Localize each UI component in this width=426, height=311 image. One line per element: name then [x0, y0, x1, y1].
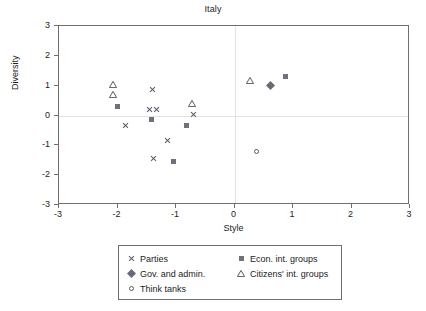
x-axis-tick	[409, 204, 410, 208]
y-axis-tick	[54, 115, 58, 116]
data-point	[188, 100, 196, 107]
y-axis-tick	[54, 55, 58, 56]
chart-legend: PartiesEcon. int. groupsGov. and admin.C…	[118, 245, 342, 300]
chart-title: Italy	[0, 4, 426, 14]
legend-label: Think tanks	[140, 284, 186, 294]
x-axis-tick-label: -2	[102, 209, 132, 219]
data-point	[153, 106, 160, 113]
data-point	[283, 74, 288, 79]
x-axis-tick	[175, 204, 176, 208]
data-point	[109, 81, 117, 88]
legend-item-empty	[235, 281, 337, 296]
data-point	[164, 137, 171, 144]
legend-item[interactable]: Citizens' int. groups	[235, 266, 337, 281]
y-axis-label-text: Diversity	[10, 55, 20, 90]
y-axis-tick	[54, 174, 58, 175]
x-axis-tick	[58, 204, 59, 208]
legend-label: Citizens' int. groups	[250, 269, 328, 279]
marker-open-triangle	[237, 270, 245, 277]
x-axis-tick	[292, 204, 293, 208]
legend-label: Econ. int. groups	[250, 254, 318, 264]
y-axis-tick	[54, 204, 58, 205]
legend-item[interactable]: Think tanks	[125, 281, 235, 296]
marker-cross-x	[128, 255, 135, 262]
x-axis-tick	[234, 204, 235, 208]
legend-symbol	[125, 268, 137, 280]
legend-symbol	[235, 268, 247, 280]
y-axis-tick	[54, 144, 58, 145]
marker-filled-square	[239, 256, 244, 261]
data-point	[149, 117, 154, 122]
legend-row: Gov. and admin.Citizens' int. groups	[125, 266, 337, 281]
data-point	[246, 77, 254, 84]
x-axis-tick-label: -1	[160, 209, 190, 219]
data-point	[149, 86, 156, 93]
legend-row: PartiesEcon. int. groups	[125, 251, 337, 266]
marker-open-circle	[129, 286, 134, 291]
data-point	[171, 159, 176, 164]
legend-grid: PartiesEcon. int. groupsGov. and admin.C…	[125, 251, 337, 296]
y-axis-tick-label: 3	[30, 19, 50, 31]
plot-frame	[58, 25, 409, 204]
legend-label: Gov. and admin.	[140, 269, 205, 279]
legend-symbol	[125, 253, 137, 265]
y-axis-tick-label: -1	[30, 138, 50, 150]
legend-symbol	[235, 253, 247, 265]
data-point	[266, 81, 275, 90]
legend-item[interactable]: Econ. int. groups	[235, 251, 337, 266]
data-point	[146, 106, 153, 113]
legend-symbol	[125, 283, 137, 295]
y-axis-tick	[54, 25, 58, 26]
plot-area	[59, 26, 408, 203]
y-axis-label: Diversity	[10, 76, 20, 90]
scatter-plot-figure: Italy Diversity Style -3-2-101233210-1-2…	[0, 0, 426, 311]
gridline-y-zero	[59, 116, 408, 117]
data-point	[150, 155, 157, 162]
marker-filled-diamond	[127, 269, 136, 278]
y-axis-tick-label: 2	[30, 49, 50, 61]
y-axis-tick-label: -2	[30, 168, 50, 180]
data-point	[254, 149, 259, 154]
x-axis-tick-label: -3	[43, 209, 73, 219]
x-axis-tick-label: 2	[336, 209, 366, 219]
x-axis-tick-label: 3	[394, 209, 424, 219]
data-point	[190, 111, 197, 118]
x-axis-tick-label: 0	[219, 209, 249, 219]
data-point	[115, 104, 120, 109]
x-axis-tick	[117, 204, 118, 208]
legend-item[interactable]: Gov. and admin.	[125, 266, 235, 281]
y-axis-tick-label: 1	[30, 79, 50, 91]
data-point	[109, 91, 117, 98]
y-axis-tick-label: 0	[30, 109, 50, 121]
legend-item[interactable]: Parties	[125, 251, 235, 266]
data-point	[184, 123, 189, 128]
y-axis-tick-label: -3	[30, 198, 50, 210]
legend-label: Parties	[140, 254, 168, 264]
gridline-x-zero	[235, 26, 236, 203]
y-axis-tick	[54, 85, 58, 86]
x-axis-label: Style	[58, 223, 409, 233]
data-point	[122, 122, 129, 129]
legend-row: Think tanks	[125, 281, 337, 296]
x-axis-tick	[351, 204, 352, 208]
x-axis-tick-label: 1	[277, 209, 307, 219]
